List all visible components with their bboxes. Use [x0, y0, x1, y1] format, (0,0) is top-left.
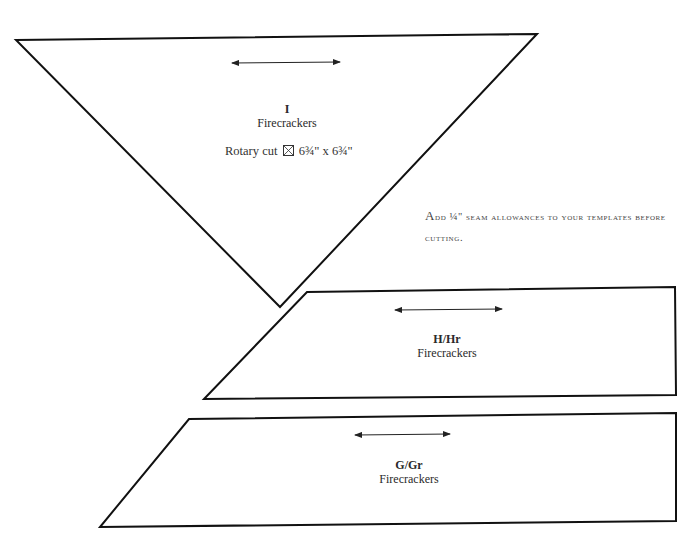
- seam-allowance-note: Add ¼" seam allowances to your templates…: [425, 205, 685, 248]
- template-g-label: G/Gr Firecrackers: [352, 458, 466, 486]
- template-name: Firecrackers: [230, 116, 344, 130]
- templates-diagram: [0, 0, 691, 541]
- note-text: dd ¼" seam allowances to your templates …: [425, 211, 666, 243]
- square-cut-diagonally-icon: [283, 145, 294, 156]
- template-h-label: H/Hr Firecrackers: [390, 332, 504, 360]
- note-initial: A: [425, 208, 435, 223]
- template-i-label: I Firecrackers: [230, 102, 344, 130]
- rotary-cut-prefix: Rotary cut: [225, 144, 277, 158]
- template-i-outline: [16, 34, 537, 307]
- template-id: I: [230, 102, 344, 116]
- rotary-cut-instruction: Rotary cut 6¾" x 6¾": [225, 144, 353, 159]
- template-name: Firecrackers: [390, 346, 504, 360]
- template-id: H/Hr: [390, 332, 504, 346]
- rotary-cut-size: 6¾" x 6¾": [299, 144, 353, 158]
- template-id: G/Gr: [352, 458, 466, 472]
- template-name: Firecrackers: [352, 472, 466, 486]
